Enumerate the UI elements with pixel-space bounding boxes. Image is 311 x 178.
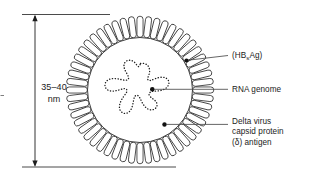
envelope-spike bbox=[66, 87, 87, 93]
dimension-arrowhead-down bbox=[32, 160, 37, 166]
diagram-canvas bbox=[0, 0, 311, 178]
inner-membrane-circle bbox=[88, 38, 193, 143]
envelope-spike bbox=[193, 87, 214, 93]
virus-particle bbox=[66, 16, 214, 164]
envelope-spike bbox=[137, 143, 143, 164]
virus-diagram-figure: (HBsAg) RNA genome Delta viruscapsid pro… bbox=[0, 0, 311, 178]
delta-antigen-marker-dot bbox=[162, 122, 166, 126]
rna-genome-marker-dot bbox=[150, 87, 155, 92]
dimension-arrowhead-up bbox=[32, 15, 37, 21]
envelope-spike bbox=[137, 16, 143, 37]
hbsag-marker-dot bbox=[184, 58, 188, 62]
